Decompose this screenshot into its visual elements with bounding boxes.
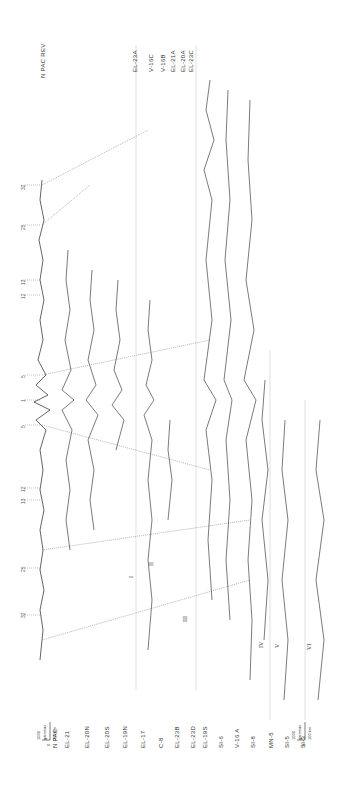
profile-label: SI-5 <box>284 736 290 748</box>
scale-zero-left: 0 <box>46 744 51 746</box>
profile-label: EL-17 <box>140 730 146 748</box>
profile-label: MN-5 <box>268 732 274 748</box>
tick-label: 25 <box>20 566 26 572</box>
tick-label: 25 <box>20 224 26 230</box>
profile-label: EL-20N <box>84 726 90 748</box>
tick-label: 5 <box>20 375 26 378</box>
roman-numeral: IV <box>258 642 264 648</box>
group-separators <box>136 45 305 720</box>
scale-amplitude-left: 1000 <box>36 731 41 740</box>
tick-label: 1 <box>20 399 26 402</box>
profile-label: V-16 A <box>234 729 240 748</box>
tick-label: 5 <box>20 425 26 428</box>
scale-amplitude-right: 1000 <box>291 731 296 740</box>
profiles <box>62 80 324 700</box>
roman-numeral: II <box>148 562 154 566</box>
profile-label-top: EL-20A <box>180 50 186 72</box>
profile-n-pac <box>34 180 50 660</box>
profile-label: EL-19S <box>202 726 208 748</box>
profile-label: SI-8 <box>250 736 256 748</box>
profile-label: EL-20S <box>104 726 110 748</box>
anomaly-profiles-figure <box>0 0 341 787</box>
scale-distance-right: 100 km <box>307 727 312 740</box>
scale-unit-right: gammas <box>297 725 302 740</box>
roman-numeral: V <box>274 644 280 648</box>
profile-label: C-8 <box>158 737 164 748</box>
roman-numeral: VI <box>306 644 312 650</box>
tick-label: 32 <box>20 184 26 190</box>
profile-label-top: N PAC REV <box>40 43 46 78</box>
profile-label-top: EL-21A <box>170 50 176 72</box>
profile-label-top: EL-23C <box>188 50 194 72</box>
profile-label: EL-19N <box>122 726 128 748</box>
tick-label: 32 <box>20 612 26 618</box>
profile-label: EL-23B <box>174 726 180 748</box>
age-ticks <box>25 185 40 615</box>
profile-label-top: V-16B <box>160 54 166 72</box>
scale-zero-right: 0 <box>301 744 306 746</box>
profile-label: EL-23D <box>190 726 196 748</box>
profile-label-top: V-16C <box>148 54 154 72</box>
tick-label: 13 <box>20 279 26 285</box>
roman-numeral: I <box>128 576 134 578</box>
scale-unit-left: gammas <box>42 725 47 740</box>
roman-numeral: III <box>182 616 188 622</box>
tick-label: 12 <box>20 486 26 492</box>
scale-distance-left: 200 km <box>52 727 57 740</box>
profile-label: EL-21 <box>64 730 70 748</box>
profile-label: SI-6 <box>218 736 224 748</box>
tick-label: 13 <box>20 498 26 504</box>
tick-label: 12 <box>20 293 26 299</box>
profile-label-top: EL-23A <box>132 50 138 72</box>
